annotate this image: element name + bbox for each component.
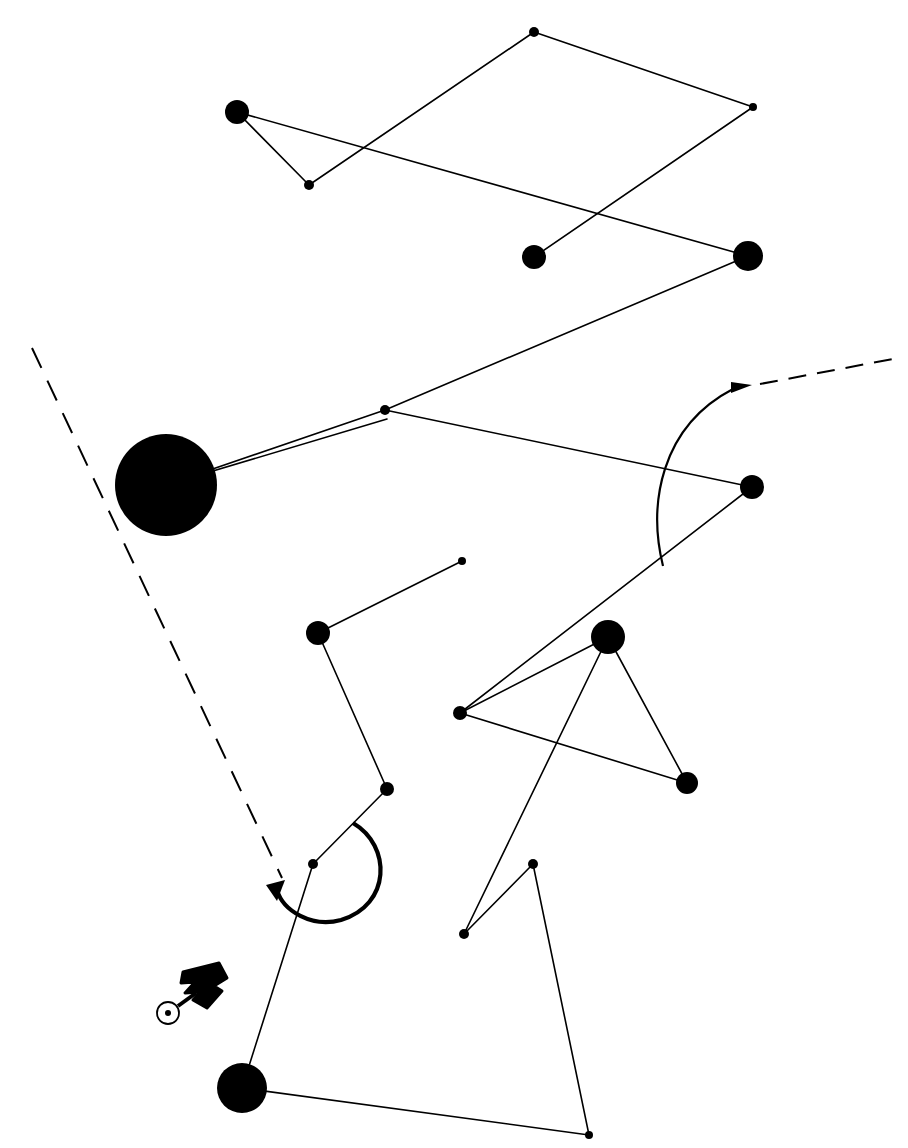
node-n3 [529, 27, 539, 37]
node-n13 [453, 706, 467, 720]
node-n15 [380, 782, 394, 796]
node-n11 [306, 621, 330, 645]
node-n18 [459, 929, 469, 939]
node-n20 [585, 1131, 593, 1139]
background [0, 0, 908, 1148]
node-n10 [458, 557, 466, 565]
diagram-svg [0, 0, 908, 1148]
node-n2 [304, 180, 314, 190]
node-n12 [591, 620, 625, 654]
node-n1 [225, 100, 249, 124]
node-n17 [528, 859, 538, 869]
circle-with-dot-marker-center [165, 1010, 171, 1016]
node-n9 [740, 475, 764, 499]
node-n5 [522, 245, 546, 269]
node-n14 [676, 772, 698, 794]
node-n4 [749, 103, 757, 111]
node-n6 [733, 241, 763, 271]
node-n16 [308, 859, 318, 869]
node-n7 [380, 405, 390, 415]
diagram-canvas [0, 0, 908, 1148]
node-n19 [217, 1063, 267, 1113]
node-n8 [115, 434, 217, 536]
